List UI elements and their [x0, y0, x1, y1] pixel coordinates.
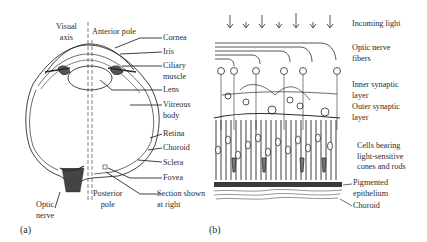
- label-cells-line3: cones and rods: [357, 162, 406, 173]
- label-optic-nerve-fibers: Optic nerve fibers: [352, 43, 390, 64]
- label-inner-line1: Inner synaptic: [352, 80, 399, 91]
- label-fibers-line1: Optic nerve: [352, 43, 390, 54]
- label-fibers-line2: fibers: [352, 54, 390, 65]
- label-outer-synaptic-layer: Outer synaptic layer: [352, 102, 400, 123]
- bipolar-cells: [225, 93, 329, 116]
- label-inner-synaptic-layer: Inner synaptic layer: [352, 80, 399, 101]
- eye-cross-section-drawing: [26, 22, 162, 208]
- label-cornea: Cornea: [163, 33, 187, 44]
- label-optic-line1: Optic: [36, 200, 54, 211]
- label-anterior-pole: Anterior pole: [92, 27, 136, 38]
- label-visual-axis: Visual axis: [56, 22, 77, 43]
- panel-label-a: (a): [20, 224, 31, 235]
- panel-label-b: (b): [209, 224, 221, 235]
- label-vitreous-line1: Vitreous: [163, 100, 191, 111]
- label-vitreous-line2: body: [163, 111, 191, 122]
- label-choroid-a: Choroid: [163, 143, 190, 154]
- label-ciliary-muscle: Ciliary muscle: [163, 61, 186, 82]
- label-visual-axis-line1: Visual: [56, 22, 77, 33]
- label-iris: Iris: [163, 47, 174, 58]
- label-cells-line2: light-sensitive: [357, 152, 406, 163]
- label-cells-line1: Cells bearing: [357, 141, 406, 152]
- label-section-line2: at right: [157, 200, 205, 211]
- label-section-shown: Section shown at right: [157, 189, 205, 210]
- pigmented-epithelium-band: [214, 182, 342, 187]
- label-vitreous-body: Vitreous body: [163, 100, 191, 121]
- incoming-light-arrows: [227, 13, 333, 28]
- label-optic-line2: nerve: [36, 211, 54, 222]
- label-posterior-line2: pole: [93, 200, 123, 211]
- label-outer-line1: Outer synaptic: [352, 102, 400, 113]
- label-cells-cones-rods: Cells bearing light-sensitive cones and …: [357, 141, 406, 173]
- label-ciliary-line1: Ciliary: [163, 61, 186, 72]
- label-visual-axis-line2: axis: [56, 33, 77, 44]
- label-sclera: Sclera: [163, 158, 183, 169]
- label-ciliary-line2: muscle: [163, 72, 186, 83]
- label-section-line1: Section shown: [157, 189, 205, 200]
- label-choroid-b: Choroid: [353, 201, 380, 212]
- label-pigmented-line2: epithelium: [353, 189, 388, 200]
- label-retina: Retina: [163, 129, 184, 140]
- label-fovea: Fovea: [163, 173, 183, 184]
- label-posterior-pole: Posterior pole: [93, 189, 123, 210]
- label-inner-line2: layer: [352, 91, 399, 102]
- label-outer-line2: layer: [352, 113, 400, 124]
- retina-section-drawing: [214, 13, 352, 206]
- label-lens: Lens: [163, 85, 179, 96]
- photoreceptor-nuclei: [216, 134, 333, 159]
- label-optic-nerve: Optic nerve: [36, 200, 54, 221]
- label-pigmented-line1: Pigmented: [353, 178, 388, 189]
- label-incoming-light: Incoming light: [352, 19, 400, 30]
- label-posterior-line1: Posterior: [93, 189, 123, 200]
- ganglion-cells: [218, 68, 341, 75]
- label-pigmented-epithelium: Pigmented epithelium: [353, 178, 388, 199]
